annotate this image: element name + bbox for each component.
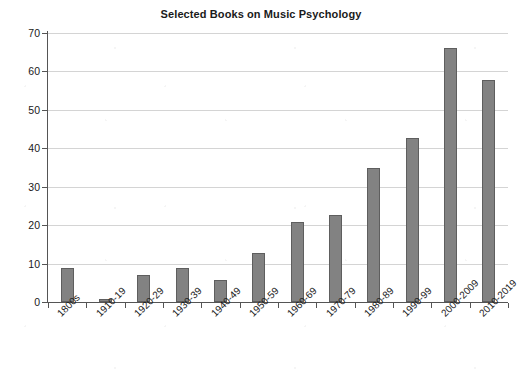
x-tick-label: 1990-99 bbox=[400, 285, 434, 319]
x-tick-label: 1970-79 bbox=[324, 285, 358, 319]
x-tick-label: 1960-69 bbox=[285, 285, 319, 319]
bar-chart: Selected Books on Music Psychology 01020… bbox=[0, 0, 522, 370]
x-axis-tick-labels: 1800s1910-191920-291930-391940-491950-59… bbox=[0, 0, 522, 370]
x-tick-label: 2010-2019 bbox=[477, 277, 519, 319]
x-tick-label: 1910-19 bbox=[94, 285, 128, 319]
x-tick-label: 1930-39 bbox=[170, 285, 204, 319]
x-tick-label: 1800s bbox=[55, 292, 82, 319]
x-tick-label: 1920-29 bbox=[132, 285, 166, 319]
x-tick-label: 1980-89 bbox=[362, 285, 396, 319]
x-tick-label: 2000-2009 bbox=[439, 277, 481, 319]
x-tick-label: 1950-59 bbox=[247, 285, 281, 319]
x-tick-label: 1940-49 bbox=[209, 285, 243, 319]
